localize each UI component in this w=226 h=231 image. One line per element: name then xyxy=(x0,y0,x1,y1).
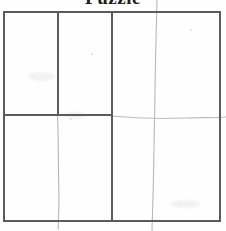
pencil-vertical-left-line xyxy=(58,115,59,229)
page-title: Puzzle xyxy=(0,0,226,9)
pencil-horizontal-right-line xyxy=(111,116,226,118)
pencil-vertical-right-line xyxy=(152,0,157,231)
paper-speck xyxy=(91,53,93,55)
scanned-puzzle-page: Puzzle xyxy=(0,0,226,231)
paper-smudge xyxy=(170,200,200,208)
paper-speck xyxy=(190,29,192,31)
grid-border-left xyxy=(3,11,5,222)
grid-divider-horizontal-left xyxy=(3,114,113,116)
page-title-clip: Puzzle xyxy=(0,0,226,11)
grid-border-right xyxy=(219,11,221,222)
paper-smudge xyxy=(28,72,54,81)
grid-divider-vertical-left xyxy=(57,11,59,116)
grid-divider-vertical-center xyxy=(111,11,113,222)
paper-speck xyxy=(70,118,72,120)
